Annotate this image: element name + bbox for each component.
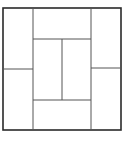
rectangle-partition-diagram [0, 0, 130, 142]
inner-partition-lines [3, 8, 121, 130]
